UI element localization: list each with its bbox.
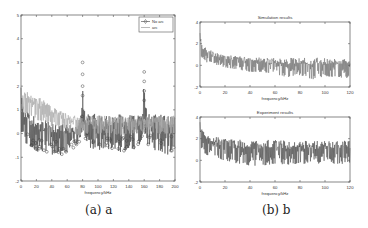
y-tick-label: 0 (196, 63, 199, 68)
x-tick-label: 40 (49, 184, 54, 189)
x-tick-label: 100 (95, 184, 103, 189)
caption-a: (a) a (85, 203, 113, 217)
y-tick-label: 1 (17, 107, 20, 112)
y-axis: -2-1012345 (15, 13, 175, 184)
y-axis: -2024 (194, 20, 350, 90)
series-experiment (200, 122, 350, 166)
x-tick-label: 80 (298, 90, 303, 95)
legend: No arcarc (139, 17, 173, 32)
x-tick-label: 80 (298, 185, 303, 190)
chart-a-frequency-spectrum: 020406080100120140160180200-2-1012345fre… (15, 13, 179, 195)
axes-box (200, 22, 350, 87)
y-tick-label: 5 (17, 13, 20, 18)
x-tick-label: 100 (322, 185, 330, 190)
chart-title: Simulation results (258, 15, 293, 20)
x-tick-label: 120 (347, 185, 355, 190)
x-tick-label: 0 (20, 184, 23, 189)
x-axis-label: frequency/kHz (85, 190, 112, 195)
x-tick-label: 100 (322, 90, 330, 95)
legend-label-no-arc: No arc (152, 19, 164, 24)
y-tick-label: 4 (17, 36, 20, 41)
figure: 020406080100120140160180200-2-1012345fre… (0, 0, 368, 228)
y-tick-label: 0 (17, 131, 20, 136)
x-tick-label: 180 (156, 184, 164, 189)
caption-b: (b) b (262, 203, 291, 217)
x-tick-label: 60 (273, 90, 278, 95)
x-axis-label: frequency/kHz (262, 96, 289, 101)
x-tick-label: 0 (199, 90, 202, 95)
legend-label-arc: arc (152, 25, 158, 30)
x-tick-label: 120 (347, 90, 355, 95)
x-axis-label: frequency/kHz (262, 191, 289, 196)
y-tick-label: 4 (196, 20, 199, 25)
x-tick-label: 60 (273, 185, 278, 190)
x-tick-label: 140 (125, 184, 133, 189)
y-tick-label: 2 (196, 136, 199, 141)
x-tick-label: 120 (110, 184, 118, 189)
y-tick-label: 4 (196, 115, 199, 120)
x-tick-label: 80 (80, 184, 85, 189)
axes-box (21, 15, 175, 181)
y-tick-label: 3 (17, 60, 20, 65)
x-tick-label: 40 (248, 185, 253, 190)
x-tick-label: 200 (172, 184, 180, 189)
x-tick-label: 20 (34, 184, 39, 189)
series-simulation (200, 33, 350, 79)
x-tick-label: 160 (141, 184, 149, 189)
x-tick-label: 40 (248, 90, 253, 95)
y-tick-label: 2 (196, 41, 199, 46)
chart-title: Experiment results (257, 110, 294, 115)
y-tick-label: 2 (17, 84, 20, 89)
x-tick-label: 0 (199, 185, 202, 190)
chart-b-simulation-results: 020406080100120-2024frequency/kHzSimulat… (194, 15, 354, 101)
y-tick-label: 0 (196, 158, 199, 163)
x-tick-label: 60 (65, 184, 70, 189)
x-tick-label: 20 (223, 90, 228, 95)
chart-b-experiment-results: 020406080100120-2024frequency/kHzExperim… (194, 110, 354, 196)
x-tick-label: 20 (223, 185, 228, 190)
y-tick-label: -1 (15, 155, 19, 160)
